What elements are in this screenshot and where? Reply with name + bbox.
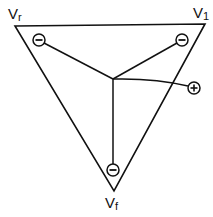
minus-electrode-icon [107,164,119,176]
minus-electrode-icon [176,34,188,46]
vertex-label-vr: Vr [8,6,22,23]
lead-to-v1-electrode [113,43,177,79]
minus-electrode-icon [33,34,45,46]
vertex-label-v1-base: V [193,4,203,21]
vertex-label-vf: Vf [105,195,118,212]
vertex-label-vf-sub: f [115,200,118,212]
plus-electrode-icon [188,82,200,94]
lead-to-vr-electrode [44,43,113,79]
vertex-label-vr-base: V [8,5,18,22]
vertex-label-vr-sub: r [18,11,22,23]
vertex-label-v1-sub: 1 [203,10,209,22]
vertex-label-vf-base: V [105,194,115,211]
diagram-canvas [0,0,213,217]
lead-to-plus-electrode [113,79,188,86]
vertex-label-v1: V1 [193,5,209,22]
